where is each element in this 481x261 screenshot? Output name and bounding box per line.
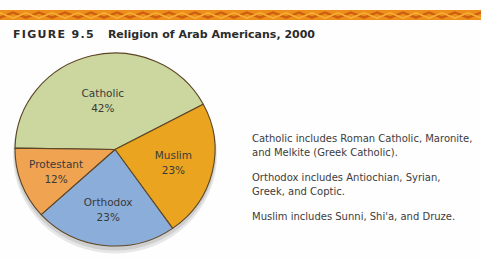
- pie-slice-value-catholic: 42%: [91, 102, 114, 114]
- note-muslim: Muslim includes Sunni, Shi'a, and Druze.: [252, 210, 474, 224]
- pie-slice-value-protestant: 12%: [44, 173, 67, 185]
- pie-slice-name-orthodox: Orthodox: [84, 196, 133, 208]
- figure-caption: FIGURE 9.5 Religion of Arab Americans, 2…: [13, 28, 315, 41]
- figure-title: Religion of Arab Americans, 2000: [108, 28, 315, 41]
- pie-slice-name-protestant: Protestant: [29, 158, 83, 170]
- pie-slice-value-orthodox: 23%: [97, 211, 120, 223]
- figure-notes: Catholic includes Roman Catholic, Maroni…: [252, 132, 474, 235]
- figure-panel: FIGURE 9.5 Religion of Arab Americans, 2…: [0, 0, 481, 261]
- pie-chart: Catholic42%Muslim23%Orthodox23%Protestan…: [10, 48, 222, 256]
- pie-slice-name-muslim: Muslim: [155, 149, 192, 161]
- figure-number-label: FIGURE 9.5: [13, 28, 95, 41]
- zigzag-banner: [0, 10, 481, 20]
- note-catholic: Catholic includes Roman Catholic, Maroni…: [252, 132, 474, 160]
- note-orthodox: Orthodox includes Antiochian, Syrian, Gr…: [252, 171, 474, 199]
- pie-slice-value-muslim: 23%: [162, 164, 185, 176]
- pie-slice-name-catholic: Catholic: [82, 87, 125, 99]
